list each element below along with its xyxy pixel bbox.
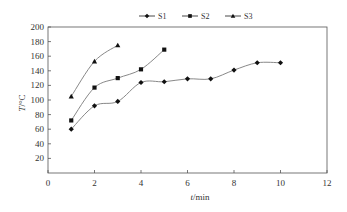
square-marker — [92, 86, 96, 90]
series-s3 — [69, 43, 121, 99]
square-marker — [162, 48, 166, 52]
y-tick-label: 20 — [35, 153, 45, 163]
x-tick-label: 6 — [185, 178, 190, 188]
y-tick-label: 140 — [31, 66, 45, 76]
legend-label: S3 — [244, 12, 252, 21]
y-tick-label: 200 — [31, 22, 45, 32]
diamond-marker — [138, 80, 143, 85]
x-tick-label: 0 — [46, 178, 51, 188]
legend-item-s1: S1 — [139, 12, 166, 21]
y-axis-label: T/°C — [17, 94, 27, 111]
series-s2 — [69, 48, 166, 123]
diamond-marker — [231, 67, 236, 72]
triangle-marker — [115, 43, 120, 48]
plot-frame — [48, 27, 327, 173]
y-tick-label: 40 — [35, 139, 45, 149]
y-tick-label: 100 — [31, 95, 45, 105]
legend-label: S1 — [158, 12, 166, 21]
series-line — [71, 62, 280, 129]
diamond-marker — [162, 79, 167, 84]
square-marker — [188, 14, 192, 18]
y-tick-label: 80 — [35, 110, 45, 120]
x-tick-label: 12 — [323, 178, 332, 188]
axes: 20406080100120140160180200024681012 — [31, 22, 332, 188]
x-tick-label: 10 — [276, 178, 286, 188]
x-tick-label: 8 — [232, 178, 237, 188]
series-line — [71, 50, 164, 121]
square-marker — [69, 118, 73, 122]
diamond-marker — [208, 76, 213, 81]
square-marker — [116, 76, 120, 80]
diamond-marker — [255, 60, 260, 65]
x-axis-label: t/min — [190, 192, 210, 202]
y-tick-label: 180 — [31, 37, 45, 47]
legend: S1S2S3 — [139, 12, 252, 21]
diamond-marker — [92, 103, 97, 108]
diamond-marker — [115, 99, 120, 104]
x-tick-label: 2 — [92, 178, 97, 188]
legend-label: S2 — [201, 12, 209, 21]
line-chart: S1S2S3 204060801001201401601802000246810… — [0, 0, 347, 212]
legend-item-s3: S3 — [225, 12, 252, 21]
series-group — [69, 43, 283, 132]
square-marker — [139, 67, 143, 71]
y-tick-label: 120 — [31, 80, 45, 90]
y-tick-label: 60 — [35, 124, 45, 134]
diamond-marker — [185, 76, 190, 81]
triangle-marker — [69, 94, 74, 99]
series-s1 — [69, 60, 283, 132]
x-tick-label: 4 — [139, 178, 144, 188]
diamond-marker — [278, 60, 283, 65]
y-tick-label: 160 — [31, 51, 45, 61]
diamond-marker — [145, 14, 150, 19]
legend-item-s2: S2 — [182, 12, 209, 21]
